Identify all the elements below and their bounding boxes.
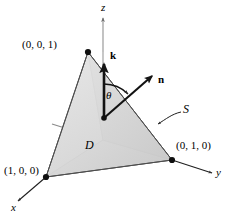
- x-axis-group: [18, 177, 46, 201]
- label-axis-z: z: [101, 2, 105, 13]
- vertex-dot-z: [85, 49, 91, 55]
- vertex-dot-y: [169, 157, 175, 163]
- figure-container: (0, 0, 1) (1, 0, 0) (0, 1, 0) z y x k n …: [0, 0, 232, 220]
- label-vertex-001: (0, 0, 1): [22, 39, 57, 50]
- label-axis-y: y: [216, 167, 221, 178]
- s-leader-arrow: [158, 112, 181, 124]
- y-axis-arrow: [172, 160, 212, 173]
- vertex-dot-x: [43, 174, 49, 180]
- label-vertex-010: (0, 1, 0): [176, 140, 211, 151]
- label-theta: θ: [106, 90, 111, 101]
- vector-base-dot: [101, 115, 107, 121]
- label-axis-x: x: [11, 202, 16, 213]
- x-axis-arrow: [18, 177, 46, 201]
- label-surface-s: S: [183, 103, 189, 115]
- s-leader-group: [158, 112, 181, 124]
- label-k-vector: k: [110, 50, 116, 61]
- tetrahedron-diagram: [0, 0, 232, 220]
- label-n-vector: n: [158, 74, 164, 85]
- label-vertex-100: (1, 0, 0): [4, 165, 39, 176]
- y-axis-group: [172, 160, 212, 173]
- label-region-d: D: [85, 139, 94, 151]
